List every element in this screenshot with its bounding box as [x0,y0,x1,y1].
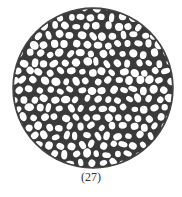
circular-mesh-figure [0,0,182,197]
figure-caption: (27) [0,170,182,185]
